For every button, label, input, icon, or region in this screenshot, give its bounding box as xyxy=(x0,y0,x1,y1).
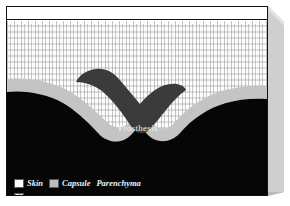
legend-label-skin: Skin xyxy=(27,179,43,188)
cross-section-figure: Prosthesis Skin Capsule Parenchyma xyxy=(6,6,268,196)
capsule-swatch-icon xyxy=(49,179,59,188)
legend-item-parenchyma: Parenchyma xyxy=(96,179,140,188)
prosthesis-label: Prosthesis xyxy=(7,123,268,133)
legend-label-parenchyma: Parenchyma xyxy=(96,179,140,188)
legend: Skin Capsule Parenchyma xyxy=(14,179,141,188)
tissue-shapes xyxy=(7,7,268,196)
skin-swatch-icon xyxy=(14,179,24,188)
parenchyma-swatch-icon xyxy=(14,193,24,196)
figure-stage: Prosthesis Skin Capsule Parenchyma xyxy=(0,0,290,206)
legend-label-capsule: Capsule xyxy=(62,179,90,188)
legend-item-capsule: Capsule xyxy=(49,179,90,188)
legend-item-skin: Skin xyxy=(14,179,43,188)
